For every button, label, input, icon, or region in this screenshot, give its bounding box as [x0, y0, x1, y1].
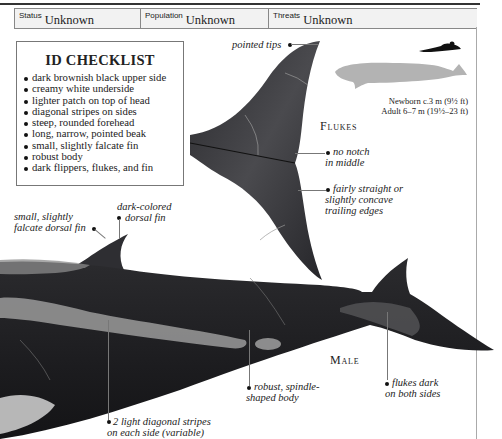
threats-field: Threats Unknown [269, 9, 476, 28]
status-label: Status [19, 11, 42, 20]
caption-flukes-dark-2: on both sides [385, 388, 440, 400]
leader-dot [326, 151, 330, 155]
caption-trailing-2: slightly concave [325, 194, 393, 206]
checklist-item: dark flippers, flukes, and fin [23, 162, 183, 173]
caption-no-notch-1: no notch [333, 146, 369, 158]
leader-dot [247, 386, 251, 390]
status-field: Status Unknown [15, 9, 141, 28]
threats-label: Threats [273, 11, 300, 20]
caption-flukes-dark-1: flukes dark [392, 377, 438, 389]
caption-pointed-tips: pointed tips [232, 39, 281, 51]
leader-dot [326, 188, 330, 192]
caption-falcate-1: small, slightly [14, 211, 73, 223]
diver-silhouette-icon [417, 41, 462, 55]
caption-dark-fin-2: dorsal fin [125, 212, 166, 224]
population-field: Population Unknown [141, 9, 269, 28]
leader-line [295, 153, 325, 154]
caption-trailing-1: fairly straight or [333, 183, 403, 195]
caption-falcate-2: falcate dorsal fin [14, 222, 86, 234]
leader-line [387, 312, 388, 380]
leader-line [119, 219, 120, 239]
checklist-title: ID CHECKLIST [17, 52, 183, 69]
adult-size: Adult 6–7 m (19½–23 ft) [370, 106, 468, 117]
leader-line [249, 330, 250, 386]
top-rule [0, 3, 480, 5]
leader-line [298, 190, 326, 191]
leader-dot [385, 382, 389, 386]
status-value: Unknown [45, 13, 94, 28]
whale-silhouette-icon [333, 58, 468, 90]
status-bar: Status Unknown Population Unknown Threat… [14, 8, 477, 29]
caption-trailing-3: trailing edges [325, 205, 383, 217]
caption-stripes-1: 2 light diagonal stripes [113, 416, 211, 428]
caption-stripes-2: on each side (variable) [107, 427, 204, 439]
leader-dot [107, 420, 111, 424]
male-heading: Male [330, 353, 359, 368]
male-whale-illustration [0, 230, 502, 439]
caption-body-2: shaped body [246, 392, 299, 404]
population-value: Unknown [186, 13, 235, 28]
leader-line [291, 44, 318, 45]
population-label: Population [145, 11, 183, 20]
checklist-item: creamy white underside [23, 83, 183, 94]
caption-no-notch-2: in middle [325, 157, 364, 169]
leader-line [108, 320, 109, 420]
id-checklist: ID CHECKLIST dark brownish black upper s… [16, 41, 184, 186]
flukes-heading: Flukes [320, 119, 357, 134]
caption-dark-fin-1: dark-colored [117, 201, 171, 213]
caption-body-1: robust, spindle- [254, 381, 320, 393]
checklist-list: dark brownish black upper side creamy wh… [23, 72, 183, 174]
threats-value: Unknown [303, 13, 352, 28]
